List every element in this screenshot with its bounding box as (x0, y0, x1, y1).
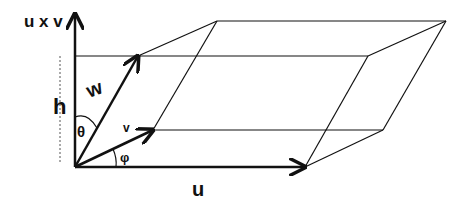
cross-product-label: u x v (24, 12, 63, 31)
parallelepiped-diagram: u x v w h θ v φ u (0, 0, 472, 200)
parallelepiped-edges (138, 21, 446, 167)
theta-label: θ (77, 123, 85, 140)
w-label: w (82, 76, 105, 102)
phi-arc (113, 149, 116, 167)
v-label: v (123, 121, 130, 135)
u-label: u (192, 178, 204, 200)
h-label: h (53, 94, 66, 119)
phi-label: φ (120, 150, 129, 165)
diagram-canvas: u x v w h θ v φ u (0, 0, 472, 200)
